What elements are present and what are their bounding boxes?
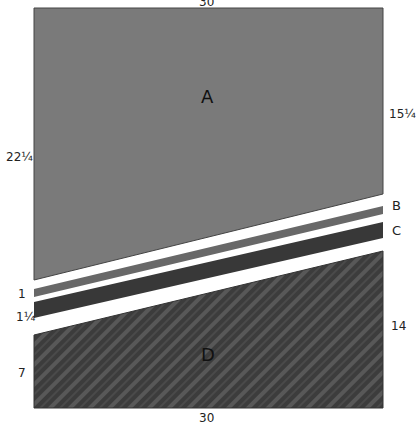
bottom-width-label: 30 (199, 412, 214, 422)
right-height-top-label: 15¼ (389, 108, 416, 120)
region-b-label: B (392, 199, 401, 212)
left-strip-b-label: 1 (18, 288, 26, 300)
region-c-label: C (392, 224, 401, 237)
left-strip-c-label: 1¼ (16, 311, 35, 323)
region-d-label: D (201, 346, 215, 364)
region-a-label: A (201, 88, 213, 106)
left-height-bottom-label: 7 (18, 367, 26, 379)
top-width-label: 30 (199, 0, 214, 8)
right-height-bottom-label: 14 (391, 320, 406, 332)
left-height-top-label: 22¼ (6, 151, 33, 163)
